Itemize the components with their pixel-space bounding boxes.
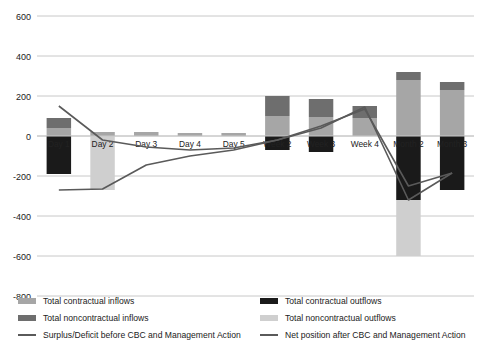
bar-segment <box>396 72 420 80</box>
legend-swatch-icon <box>18 315 36 321</box>
bar-segment <box>440 82 464 90</box>
legend-column-left: Total contractual inflows Total noncontr… <box>18 293 258 344</box>
legend-item-label: Surplus/Deficit before CBC and Managemen… <box>43 330 241 340</box>
data-line <box>59 109 452 190</box>
chart-container: 6004002000-200-400-600-800 Day 1Day 2Day… <box>0 0 479 346</box>
x-tick-label: Day 1 <box>48 139 70 149</box>
legend-item-label: Total noncontractual inflows <box>43 313 149 323</box>
legend-item-label: Total contractual outflows <box>285 296 382 306</box>
bar-segment <box>265 116 289 136</box>
legend-item: Total contractual outflows <box>260 293 479 308</box>
y-tick-label: -200 <box>13 172 31 182</box>
legend-line-icon <box>260 334 278 336</box>
data-line <box>59 106 452 200</box>
legend-swatch-icon <box>260 298 278 304</box>
chart-legend: Total contractual inflows Total noncontr… <box>0 293 479 346</box>
bar-segment <box>265 96 289 116</box>
x-tick-label: Week 3 <box>307 139 336 149</box>
bar-segment <box>440 90 464 136</box>
bar-segment <box>309 99 333 117</box>
bar-segment <box>47 128 71 136</box>
legend-item: Total noncontractual outflows <box>260 310 479 325</box>
legend-item: Net position after CBC and Management Ac… <box>260 327 479 342</box>
legend-item-label: Total noncontractual outflows <box>285 313 396 323</box>
bars-layer <box>47 72 465 256</box>
y-tick-label: 0 <box>26 132 31 142</box>
y-tick-label: -600 <box>13 252 31 262</box>
y-axis-tick-labels: 6004002000-200-400-600-800 <box>13 12 31 302</box>
lines-layer <box>59 106 452 200</box>
x-tick-label: Month 2 <box>393 139 424 149</box>
y-tick-label: 400 <box>16 52 31 62</box>
legend-item: Surplus/Deficit before CBC and Managemen… <box>18 327 258 342</box>
legend-item: Total noncontractual inflows <box>18 310 258 325</box>
x-tick-label: Day 4 <box>179 139 201 149</box>
y-tick-label: 200 <box>16 92 31 102</box>
legend-column-right: Total contractual outflows Total noncont… <box>260 293 479 344</box>
x-tick-label: Month 3 <box>437 139 468 149</box>
legend-swatch-icon <box>18 298 36 304</box>
legend-item: Total contractual inflows <box>18 293 258 308</box>
bar-segment <box>47 118 71 128</box>
legend-line-icon <box>18 334 36 336</box>
bar-segment <box>396 80 420 136</box>
y-tick-label: 600 <box>16 12 31 22</box>
x-tick-label: Week 4 <box>351 139 380 149</box>
legend-item-label: Net position after CBC and Management Ac… <box>285 330 466 340</box>
y-tick-label: -400 <box>13 212 31 222</box>
legend-swatch-icon <box>260 315 278 321</box>
legend-item-label: Total contractual inflows <box>43 296 134 306</box>
bar-segment <box>396 200 420 256</box>
bar-segment <box>134 132 158 136</box>
